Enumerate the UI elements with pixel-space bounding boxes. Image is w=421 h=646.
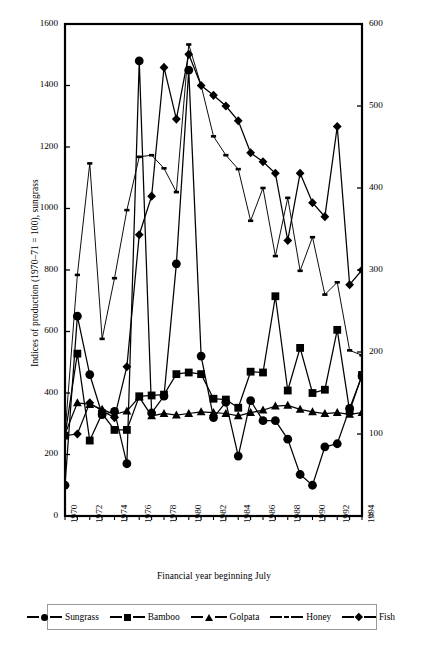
legend-line-right	[291, 616, 303, 617]
y-axis-right-tick-label: 400	[369, 182, 403, 192]
series-honey	[62, 43, 364, 435]
y-axis-left-tick-label: 1200	[24, 141, 58, 151]
legend-item-honey: Honey	[270, 612, 333, 622]
legend-marker-square-icon	[124, 614, 131, 621]
legend-label: Golpata	[229, 612, 262, 622]
y-axis-left-tick-label: 800	[24, 264, 58, 274]
legend-line-left	[191, 616, 203, 617]
legend-line-left	[27, 616, 39, 617]
y-axis-left-tick-label: 600	[24, 325, 58, 335]
x-axis-tick-label: 1994	[366, 483, 376, 523]
chart-legend: SungrassBambooGolpataHoneyFish	[47, 604, 377, 630]
legend-marker-diamond-icon	[355, 613, 363, 621]
x-axis-title: Financial year beginning July	[65, 571, 363, 581]
x-axis-tick-label: 1970	[69, 483, 79, 523]
legend-line-right	[133, 616, 145, 617]
chart-figure: Indices of production (1970–71 = 100), s…	[0, 0, 421, 646]
x-axis-tick-label: 1980	[193, 483, 203, 523]
legend-line-right	[50, 616, 62, 617]
y-axis-left-tick-label: 0	[24, 510, 58, 520]
y-axis-right-tick-label: 500	[369, 100, 403, 110]
legend-line-right	[364, 616, 376, 617]
legend-marker-dash-icon	[284, 616, 289, 619]
legend-label: Bamboo	[147, 612, 182, 622]
legend-line-left	[342, 616, 354, 617]
legend-line-right	[215, 616, 227, 617]
legend-label: Sungrass	[64, 612, 101, 622]
legend-item-golpata: Golpata	[191, 612, 262, 622]
legend-marker-triangle-icon	[205, 614, 213, 621]
x-axis-tick-label: 1978	[168, 483, 178, 523]
x-axis-tick-label: 1972	[94, 483, 104, 523]
legend-item-sungrass: Sungrass	[27, 612, 101, 622]
x-axis-tick-label: 1984	[242, 483, 252, 523]
x-axis-tick-label: 1982	[218, 483, 228, 523]
y-axis-left-tick-label: 1400	[24, 79, 58, 89]
plot-canvas	[0, 0, 421, 646]
legend-label: Fish	[378, 612, 397, 622]
x-axis-tick-label: 1990	[317, 483, 327, 523]
legend-line-left	[110, 616, 122, 617]
legend-label: Honey	[305, 612, 333, 622]
legend-marker-circle-icon	[41, 614, 48, 621]
legend-line-left	[270, 616, 282, 617]
legend-item-bamboo: Bamboo	[110, 612, 182, 622]
y-axis-left-tick-label: 200	[24, 448, 58, 458]
y-axis-left-tick-label: 1600	[24, 18, 58, 28]
x-axis-tick-label: 1992	[341, 483, 351, 523]
x-axis-tick-label: 1974	[119, 483, 129, 523]
y-axis-right-tick-label: 200	[369, 346, 403, 356]
y-axis-left-tick-label: 400	[24, 387, 58, 397]
y-axis-right-tick-label: 300	[369, 264, 403, 274]
legend-item-fish: Fish	[342, 612, 397, 622]
x-axis-tick-label: 1986	[267, 483, 277, 523]
x-axis-tick-label: 1988	[292, 483, 302, 523]
y-axis-left-tick-label: 1000	[24, 202, 58, 212]
x-axis-tick-label: 1976	[143, 483, 153, 523]
series-fish	[61, 50, 367, 441]
y-axis-right-tick-label: 100	[369, 428, 403, 438]
y-axis-right-tick-label: 600	[369, 18, 403, 28]
